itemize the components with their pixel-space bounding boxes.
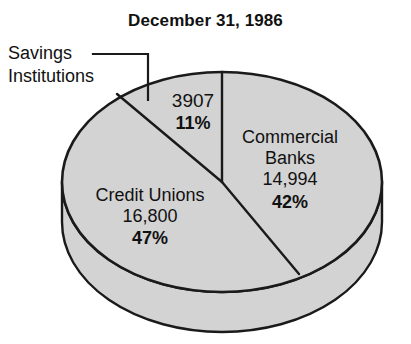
savings-slice-value: 3907 [172,90,214,111]
commercial-banks-name-line1: Commercial [234,127,346,148]
commercial-banks-slice-label-group: Commercial Banks 14,994 42% [234,127,346,213]
credit-unions-name: Credit Unions [78,185,222,206]
pie-chart-figure: December 31, 1986 Savings Institutions 3… [0,0,411,344]
credit-unions-value: 16,800 [78,206,222,227]
savings-slice-percent: 11% [163,113,223,133]
savings-callout-line2: Institutions [8,65,94,88]
credit-unions-slice-label-group: Credit Unions 16,800 47% [78,185,222,250]
commercial-banks-value: 14,994 [234,169,346,190]
chart-title: December 31, 1986 [0,11,411,30]
savings-institutions-callout-label: Savings Institutions [8,42,94,87]
savings-slice-value-group: 3907 11% [163,90,223,133]
commercial-banks-name-line2: Banks [234,148,346,169]
credit-unions-percent: 47% [78,228,222,249]
savings-callout-line1: Savings [8,43,72,63]
commercial-banks-percent: 42% [234,192,346,213]
